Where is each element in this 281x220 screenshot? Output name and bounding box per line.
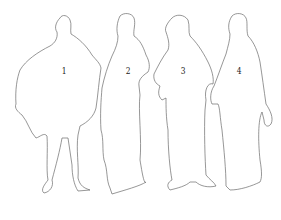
figure-2-outline: [101, 14, 150, 194]
figures-diagram: 1 2 3 4: [0, 0, 281, 220]
figure-3-label: 3: [181, 66, 186, 76]
figure-3-outline: [154, 15, 216, 190]
silhouettes-drawing: [0, 0, 281, 220]
figure-1-label: 1: [62, 66, 67, 76]
figure-1-outline: [15, 16, 101, 193]
figure-4-outline: [211, 14, 272, 190]
figure-2-label: 2: [126, 66, 131, 76]
figure-4-label: 4: [237, 66, 242, 76]
